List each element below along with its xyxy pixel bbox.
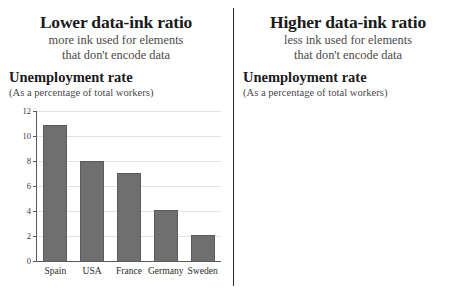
panel-subtitle-higher-line2: that don't encode data [232,48,464,62]
chart-heading-right: Unemployment rate (As a percentage of to… [243,70,387,99]
chart-title-right: Unemployment rate [243,70,387,86]
x-axis-label-spain: Spain [37,265,74,276]
bar-slot [74,112,111,262]
x-axis-labels-left: SpainUSAFranceGermanySweden [37,265,221,276]
panel-title-lower: Lower data-ink ratio [0,0,232,31]
plot-area-left: 024681012 [37,112,221,262]
bar-usa [80,161,104,262]
y-axis-tick-label: 10 [7,132,31,141]
chart-subtitle-left: (As a percentage of total workers) [9,87,153,99]
panel-subtitle-higher-line1: less ink used for elements [232,33,464,47]
chart-heading-left: Unemployment rate (As a percentage of to… [9,70,153,99]
bar-slot [184,112,221,262]
panel-title-higher: Higher data-ink ratio [232,0,464,31]
panel-divider [233,8,234,286]
bar-spain [43,125,67,263]
y-axis-tick-label: 6 [7,182,31,191]
bar-france [117,173,141,262]
panel-subtitle-lower-line2: that don't encode data [0,48,232,62]
bar-sweden [191,235,215,263]
y-axis-tick-label: 0 [7,257,31,266]
panel-lower-data-ink: Lower data-ink ratio more ink used for e… [0,0,232,294]
bar-slot [37,112,74,262]
bar-germany [154,210,178,263]
panel-subtitle-lower-line1: more ink used for elements [0,33,232,47]
x-axis-label-usa: USA [74,265,111,276]
chart-title-left: Unemployment rate [9,70,153,86]
bar-slot [111,112,148,262]
panel-subtitle-lower: more ink used for elements that don't en… [0,33,232,62]
x-axis-label-sweden: Sweden [184,265,221,276]
y-axis-tick-label: 8 [7,157,31,166]
bar-slot [147,112,184,262]
panel-higher-data-ink: Higher data-ink ratio less ink used for … [232,0,464,294]
bar-series-left [37,112,221,262]
y-axis-tick-label: 4 [7,207,31,216]
panel-subtitle-higher: less ink used for elements that don't en… [232,33,464,62]
data-ink-ratio-comparison: Lower data-ink ratio more ink used for e… [0,0,465,294]
chart-subtitle-right: (As a percentage of total workers) [243,87,387,99]
x-axis-label-france: France [111,265,148,276]
x-axis-label-germany: Germany [147,265,184,276]
y-axis-tick-label: 2 [7,232,31,241]
y-axis-tick-label: 12 [7,107,31,116]
